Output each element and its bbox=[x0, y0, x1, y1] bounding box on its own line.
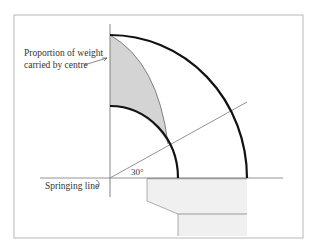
angle-label: 30° bbox=[131, 167, 144, 177]
springing-line-label: Springing line bbox=[45, 181, 99, 191]
proportion-label-line1: Proportion of weight bbox=[24, 48, 104, 58]
arch-diagram: Proportion of weight carried by centre S… bbox=[0, 0, 317, 248]
proportion-label-line2: carried by centre bbox=[24, 60, 88, 70]
